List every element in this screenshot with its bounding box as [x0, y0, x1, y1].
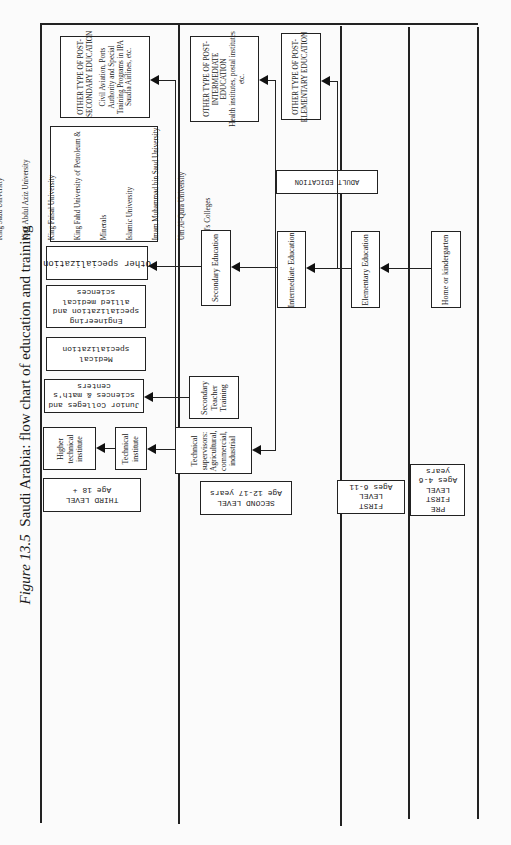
second-level-title: SECOND LEVEL — [210, 498, 282, 508]
connector-to-technical-institute — [155, 449, 175, 450]
figure-label: Figure 13.5 — [17, 534, 33, 604]
pre-first-level-label-box: PRE FIRST LEVEL Ages 4-6 years — [410, 464, 465, 516]
home-kindergarten-label: Home or kindergarten — [441, 234, 451, 305]
higher-technical-line: Higher — [55, 434, 65, 463]
technical-supervisors-line: Technical — [190, 430, 200, 471]
intermediate-education-box: Intermediate Education — [277, 231, 306, 308]
technical-supervisors-line: Agricultural, — [209, 430, 219, 471]
pre-first-level-title: LEVEL — [418, 485, 456, 495]
connector-secondary-to-other-specialization — [157, 266, 201, 267]
elementary-education-box: Elementary Education — [351, 231, 380, 308]
technical-supervisors-line: commercial, — [218, 430, 228, 471]
arrow-to-junior-colleges — [144, 392, 153, 402]
connector-elementary-to-post-elementary — [337, 81, 338, 268]
first-level-title: LEVEL — [349, 492, 392, 502]
other-post-secondary-line: Civil Aviation, Ports — [99, 37, 108, 117]
teacher-training-line: Teacher — [209, 381, 219, 415]
university-item: Imam Muhammad bin Saud University — [152, 128, 161, 241]
secondary-education-box: Secondary Education — [201, 230, 231, 306]
connector-intermediate-vertical — [275, 80, 276, 451]
first-level-age: Ages 6-11 — [349, 483, 392, 493]
third-level-age: Age 18 + — [66, 485, 119, 495]
other-post-secondary-line: Training Programs in IPA — [116, 37, 125, 117]
pre-first-level-age: Ages 4-6 — [418, 476, 456, 486]
technical-supervisors-line: supervisors: — [199, 430, 209, 471]
arrow-to-elementary — [380, 263, 389, 273]
third-level-title: THIRD LEVEL — [66, 495, 119, 505]
home-kindergarten-box: Home or kindergarten — [431, 231, 461, 308]
other-post-intermediate-box: OTHER TYPE OF POST- INTERMEDIATE EDUCATI… — [190, 36, 259, 122]
second-level-label-box: SECOND LEVEL Age 12-17 years — [200, 481, 292, 515]
arrow-to-post-intermediate — [259, 75, 268, 85]
divider-second-first — [340, 26, 342, 826]
other-post-secondary-line: Saudia Airlines, etc. — [125, 37, 134, 117]
technical-supervisors-box: Technical supervisors: Agricultural, com… — [175, 427, 252, 474]
figure-title-text: Saudi Arabia: flow chart of education an… — [17, 226, 33, 527]
connector-post-elementary-horizontal — [329, 81, 338, 82]
university-item: King Faisal University — [48, 128, 57, 241]
university-item: Um Al-Qura University — [177, 128, 186, 241]
post-intermediate-line: Health institutes, postal institutes — [229, 31, 238, 126]
arrow-to-post-secondary — [150, 75, 159, 85]
secondary-teacher-training-box: Secondary Teacher Training — [189, 376, 239, 419]
teacher-training-line: Training — [219, 381, 229, 415]
connector-kinder-to-elementary — [388, 268, 431, 269]
other-post-secondary-heading-2: SECONDARY EDUCATION — [85, 37, 94, 117]
connector-secondary-vertical — [175, 80, 176, 450]
technical-institute-line: Technical — [121, 433, 131, 464]
higher-technical-institute-box: Higher technical institute — [43, 427, 96, 470]
technical-institute-box: Technical institute — [115, 427, 147, 470]
connector-technical-supervisors-horizontal — [260, 450, 276, 451]
engineering-line: allied medical — [53, 297, 139, 307]
junior-colleges-box: Junior Colleges and sciences & math's ce… — [44, 379, 144, 413]
university-item: King Saud University — [0, 128, 5, 241]
second-level-age: Age 12-17 years — [210, 488, 282, 498]
junior-colleges-line: sciences & math's — [48, 391, 139, 401]
frame-right-border — [477, 27, 479, 819]
engineering-specialization-box: Engineering specialization and allied me… — [46, 285, 146, 328]
medical-specialization-box: Medical specialization — [46, 337, 146, 371]
adult-education-box: ADULT EDICATION — [276, 170, 378, 194]
universities-box: King Saud University King Abdul Aziz Uni… — [50, 126, 158, 242]
university-item: Islamic University — [126, 128, 135, 241]
elementary-education-label: Elementary Education — [361, 234, 371, 305]
arrow-to-technical-supervisors — [252, 445, 261, 455]
connector-teacher-training-to-junior-colleges — [152, 397, 189, 398]
adult-education-label: ADULT EDICATION — [295, 178, 360, 187]
figure-title: Figure 13.5 Saudi Arabia: flow chart of … — [5, 200, 45, 630]
higher-technical-line: technical — [65, 434, 75, 463]
junior-colleges-line: centers — [48, 382, 139, 392]
first-level-label-box: FIRST LEVEL Ages 6-11 — [337, 480, 405, 514]
other-post-elementary-box: OTHER TYPE OF POST- ELEMENTARY EDUCATION — [281, 33, 321, 120]
higher-technical-line: institute — [74, 434, 84, 463]
other-specialization-box: Other specialization — [46, 246, 148, 280]
engineering-line: sciences — [53, 287, 139, 297]
medical-line: Medical — [62, 354, 129, 364]
post-intermediate-heading: OTHER TYPE OF POST- — [203, 31, 212, 126]
frame-top-border — [40, 23, 478, 25]
university-item: King Abdul Aziz University — [22, 128, 31, 241]
other-post-secondary-line: Authority and Special — [108, 37, 117, 117]
university-item: Girl's Colleges — [203, 128, 212, 241]
post-intermediate-heading: INTERMEDIATE — [212, 31, 221, 126]
connector-elementary-to-intermediate — [314, 268, 351, 269]
third-level-label-box: THIRD LEVEL Age 18 + — [43, 478, 141, 512]
pre-first-level-title: FIRST — [418, 495, 456, 505]
other-post-secondary-heading-1: OTHER TYPE OF POST- — [77, 37, 86, 117]
intermediate-education-label: Intermediate Education — [287, 232, 297, 307]
pre-first-level-age: years — [418, 466, 456, 476]
engineering-line: specialization and — [53, 307, 139, 317]
post-intermediate-line: etc. — [237, 31, 246, 126]
arrow-to-intermediate — [306, 263, 315, 273]
university-item: King Fahd University of Petroleum & — [74, 128, 83, 241]
teacher-training-line: Secondary — [200, 381, 210, 415]
university-item: Minerals — [100, 128, 109, 241]
arrow-to-higher-technical — [96, 443, 105, 453]
arrow-to-other-specialization — [148, 261, 157, 271]
arrow-to-technical-institute — [147, 444, 156, 454]
post-elementary-heading: ELEMENTARY EDUCATION — [301, 31, 310, 121]
post-elementary-heading: OTHER TYPE OF POST- — [292, 31, 301, 121]
connector-post-secondary-horizontal — [158, 80, 176, 81]
divider-first-prefirst — [408, 27, 410, 819]
first-level-title: FIRST — [349, 502, 392, 512]
